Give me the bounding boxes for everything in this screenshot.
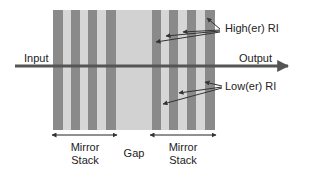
right-stack-dark-layer xyxy=(187,10,196,130)
input-label: Input xyxy=(24,52,48,65)
left-stack-dark-layer xyxy=(88,10,97,130)
left-stack-dark-layer xyxy=(71,10,80,130)
right-stack-dark-layer xyxy=(152,10,161,130)
output-label: Output xyxy=(239,52,272,65)
right-stack-dark-layer xyxy=(205,10,215,130)
right-mirror-stack-label-line1: Mirror xyxy=(161,141,205,154)
left-stack-light-layer xyxy=(80,10,88,130)
left-stack-light-layer xyxy=(63,10,71,130)
right-mirror-stack-label-line2: Stack xyxy=(161,154,205,167)
gap-label: Gap xyxy=(121,147,147,160)
right-stack-light-layer xyxy=(178,10,187,130)
left-mirror-stack-label-line1: Mirror xyxy=(63,141,107,154)
lower-ri-label: Low(er) RI xyxy=(225,80,276,93)
right-stack-dark-layer xyxy=(169,10,178,130)
left-stack-dark-layer xyxy=(53,10,63,130)
layer-stack xyxy=(53,10,215,130)
right-stack-light-layer xyxy=(161,10,169,130)
gap-gap-layer xyxy=(116,10,152,130)
higher-ri-label: High(er) RI xyxy=(225,22,279,35)
left-mirror-stack-label-line2: Stack xyxy=(63,154,107,167)
left-stack-dark-layer xyxy=(106,10,116,130)
left-stack-light-layer xyxy=(97,10,106,130)
right-stack-light-layer xyxy=(196,10,205,130)
